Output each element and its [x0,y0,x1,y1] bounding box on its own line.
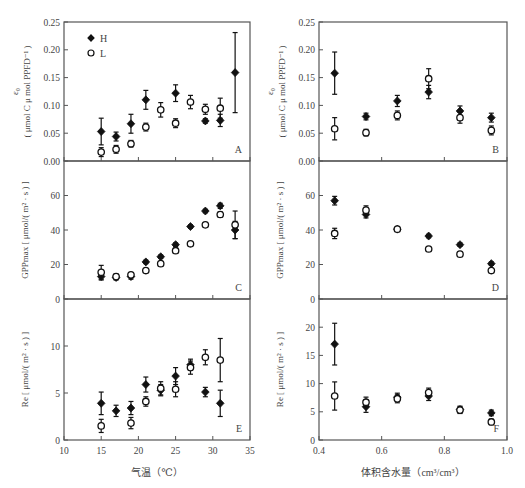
data-point-l [202,106,208,112]
series-h [331,196,495,267]
data-point-l [98,149,104,155]
x-axis-label: 体积含水量（cm³/cm³） [361,466,464,478]
panel-letter: C [235,282,242,293]
data-point-h [456,241,464,249]
data-point-l [394,112,400,118]
data-point-l [217,211,223,217]
y-tick-label: 0.00 [298,157,315,167]
data-point-l [98,269,104,275]
data-point-h [142,381,150,389]
data-point-l [158,385,164,391]
data-point-h [142,96,150,104]
x-tick-label: 1.0 [501,446,513,456]
figure-container: 0.000.050.100.150.200.25ε₀( μmol C μ mol… [0,0,525,488]
data-point-l [425,389,431,395]
series-l [331,206,494,274]
y-tick-label: 0.05 [298,129,315,139]
legend-label-h: H [100,33,107,44]
data-point-l [331,230,337,236]
y-axis-label-symbol: ε₀ [265,88,275,95]
x-axis-label: 气温（℃） [131,466,182,478]
data-point-h [331,197,339,205]
panel-letter: B [492,144,499,155]
data-point-h [331,340,339,348]
data-point-l [158,260,164,266]
y-tick-label: 0.20 [43,45,60,55]
data-point-l [202,222,208,228]
y-axis-label-symbol: ε₀ [10,88,20,95]
data-point-h [127,404,135,412]
y-tick-label: 0 [310,436,315,446]
y-tick-label: 0.05 [43,129,60,139]
series-l [98,211,238,280]
x-tick-label: 0.6 [376,446,388,456]
data-point-l [143,267,149,273]
data-point-h [216,202,224,210]
panel-letter: E [236,423,242,434]
y-axis-label: GPPmax [ μmol/( m² · s ) ] [275,181,285,278]
y-tick-label: 0.15 [43,73,60,83]
y-tick-label: 5 [55,389,60,399]
y-axis-label: ( μmol C μ mol PPFD⁻¹ ) [277,45,287,137]
plot-frame [319,22,507,161]
plot-frame [64,22,250,161]
data-point-l [187,99,193,105]
y-tick-label: 40 [51,226,61,236]
legend-marker-l [88,50,94,56]
data-point-h [488,260,496,268]
series-l [331,69,494,140]
data-point-h [231,69,239,77]
panel-letter: A [235,144,243,155]
panel-e: 0510101520253035气温（℃）Re [ μmol/( m² · s … [20,299,255,478]
data-point-l [331,393,337,399]
data-point-l [331,126,337,132]
y-tick-label: 20 [51,260,61,270]
data-point-l [232,222,238,228]
legend-label-l: L [100,48,106,59]
series-l [98,338,223,432]
x-tick-label: 25 [171,446,181,456]
data-point-h [112,133,120,141]
x-tick-label: 15 [96,446,106,456]
scatter-panels-figure: 0.000.050.100.150.200.25ε₀( μmol C μ mol… [0,0,525,488]
y-tick-label: 10 [306,379,316,389]
data-point-l [113,273,119,279]
panel-b: 0.000.050.100.150.200.25ε₀( μmol C μ mol… [265,18,507,167]
data-point-l [202,354,208,360]
data-point-l [363,129,369,135]
data-point-h [488,409,496,417]
plot-frame [64,161,250,299]
x-tick-label: 0.8 [438,446,450,456]
x-tick-label: 35 [245,446,255,456]
legend: HL [87,33,107,59]
data-point-h [202,117,210,125]
y-tick-label: 0.25 [298,18,315,28]
data-point-h [142,258,150,266]
data-point-l [363,207,369,213]
data-point-l [363,399,369,405]
y-axis-label: Re [ μmol/( m² · s ) ] [20,332,30,407]
data-point-h [362,113,370,121]
y-tick-label: 20 [306,260,316,270]
panel-d: 0204060GPPmax [ μmol/( m² · s ) ]D [275,161,507,305]
data-point-h [127,120,135,128]
data-point-h [394,97,402,105]
data-point-h [157,253,165,261]
data-point-l [187,241,193,247]
y-axis-label: ( μmol C μ mol PPFD⁻¹ ) [22,45,32,137]
y-tick-label: 5 [310,407,315,417]
y-tick-label: 0.10 [43,101,60,111]
data-point-h [172,372,180,380]
panel-f: 051015200.40.60.81.0体积含水量（cm³/cm³）Re [ μ… [275,299,513,478]
y-tick-label: 20 [306,323,316,333]
y-tick-label: 60 [306,191,316,201]
data-point-l [143,124,149,130]
y-tick-label: 0.10 [298,101,315,111]
y-axis-label: Re [ μmol/( m² · s ) ] [275,332,285,407]
data-point-h [97,128,105,136]
data-point-h [488,114,496,122]
y-tick-label: 0 [55,295,60,305]
series-h [331,323,495,417]
y-tick-label: 15 [306,351,316,361]
data-point-l [425,246,431,252]
